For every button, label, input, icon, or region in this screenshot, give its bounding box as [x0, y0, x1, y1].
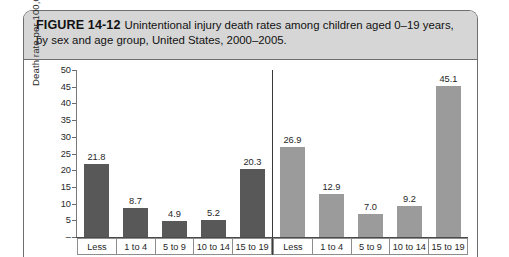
x-axis-category-label: 1 to 4 — [313, 238, 352, 255]
bar-value-label: 21.8 — [87, 152, 105, 163]
x-axis-category-label: 10 to 14 — [390, 238, 429, 255]
bar-value-label: 7.0 — [364, 202, 377, 213]
bar-value-label: 9.2 — [403, 194, 416, 205]
x-axis-labels-group-1: Less1 to 45 to 910 to 1415 to 19 — [77, 238, 272, 255]
figure-container: FIGURE 14-12Unintentional injury death r… — [23, 10, 478, 257]
bar-value-label: 12.9 — [322, 182, 340, 193]
bar-group-2: 26.912.97.09.245.1 — [272, 70, 468, 237]
bar-value-label: 20.3 — [243, 157, 261, 168]
x-axis-labels-group-2: Less1 to 45 to 910 to 1415 to 19 — [272, 238, 468, 255]
y-axis-tick-label: 50 — [61, 65, 71, 75]
bar — [240, 169, 264, 237]
figure-caption: FIGURE 14-12Unintentional injury death r… — [24, 11, 477, 60]
bar — [319, 194, 343, 237]
bar-cell: 20.3 — [233, 70, 272, 237]
x-axis-category-label: 15 to 19 — [429, 238, 468, 255]
x-axis-category-label: 5 to 9 — [352, 238, 391, 255]
figure-number: FIGURE 14-12 — [36, 18, 121, 32]
y-axis-tick-label: 45 — [61, 82, 71, 92]
x-axis-category-label: 1 to 4 — [117, 238, 156, 255]
bar-value-label: 8.7 — [129, 196, 142, 207]
bar-cell: 9.2 — [390, 70, 429, 237]
bar-cell: 5.2 — [194, 70, 233, 237]
bar — [436, 86, 460, 237]
y-axis-tick-label: 10 — [61, 199, 71, 209]
y-axis-tick-label: 20 — [61, 165, 71, 175]
x-axis-labels: Less1 to 45 to 910 to 1415 to 19 Less1 t… — [77, 238, 468, 255]
bar — [201, 220, 225, 237]
axis-area: 5045403530252015105– 21.88.74.95.220.3 2… — [52, 70, 468, 257]
bar-value-label: 45.1 — [439, 74, 457, 85]
y-axis-tick-label: 30 — [61, 132, 71, 142]
bar-panels: 21.88.74.95.220.3 26.912.97.09.245.1 — [77, 70, 468, 237]
bar-group-1: 21.88.74.95.220.3 — [77, 70, 272, 237]
bar-cell: 12.9 — [312, 70, 351, 237]
y-axis-ticks: 5045403530252015105– — [52, 70, 76, 237]
chart-plot-area: Death rate per 100,000 population 504540… — [24, 60, 477, 257]
bar — [280, 147, 304, 237]
bar-cell: 7.0 — [351, 70, 390, 237]
bar — [397, 206, 421, 237]
bar-cell: 26.9 — [273, 70, 312, 237]
y-axis-tick-label: 35 — [61, 115, 71, 125]
bar-value-label: 4.9 — [168, 209, 181, 220]
y-axis-tick-label: 15 — [61, 182, 71, 192]
y-axis-tick-label: 40 — [61, 98, 71, 108]
y-axis-tick-label: – — [66, 232, 71, 242]
bar-value-label: 5.2 — [207, 208, 220, 219]
bar-cell: 8.7 — [116, 70, 155, 237]
bar-cell: 45.1 — [429, 70, 468, 237]
bar-cell: 21.8 — [77, 70, 116, 237]
y-axis-tick-label: 5 — [66, 215, 71, 225]
y-axis-tick-label: 25 — [61, 149, 71, 159]
bar — [123, 208, 147, 237]
bar — [358, 214, 382, 237]
y-axis-title: Death rate per 100,000 population — [30, 0, 41, 86]
x-axis-category-label: 10 to 14 — [194, 238, 233, 255]
bar — [162, 221, 186, 237]
bar-value-label: 26.9 — [283, 135, 301, 146]
x-axis-category-label: 15 to 19 — [233, 238, 272, 255]
x-axis-category-label: Less — [273, 238, 313, 255]
bar-cell: 4.9 — [155, 70, 194, 237]
x-axis-category-label: 5 to 9 — [156, 238, 195, 255]
bar — [84, 164, 108, 237]
x-axis-category-label: Less — [77, 238, 117, 255]
